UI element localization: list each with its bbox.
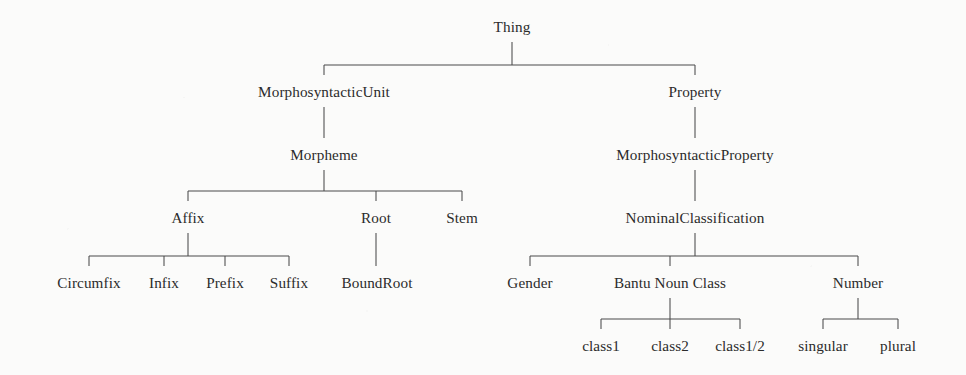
node-number: Number: [833, 274, 883, 291]
node-stem: Stem: [446, 209, 478, 226]
node-affix: Affix: [171, 209, 204, 226]
tree-svg: ThingMorphosyntacticUnitPropertyMorpheme…: [0, 0, 966, 375]
node-gender: Gender: [507, 274, 552, 291]
node-thing: Thing: [494, 18, 531, 35]
node-morphosyntactic-property: MorphosyntacticProperty: [616, 146, 774, 163]
label-layer: ThingMorphosyntacticUnitPropertyMorpheme…: [57, 18, 916, 354]
node-class1: class1: [582, 337, 620, 354]
node-singular: singular: [798, 337, 848, 354]
node-property: Property: [668, 83, 721, 100]
node-prefix: Prefix: [206, 274, 244, 291]
taxonomy-diagram: ThingMorphosyntacticUnitPropertyMorpheme…: [0, 0, 966, 375]
node-class1-2: class1/2: [715, 337, 765, 354]
node-suffix: Suffix: [270, 274, 309, 291]
node-morpheme: Morpheme: [290, 146, 358, 163]
node-bound-root: BoundRoot: [342, 274, 414, 291]
node-plural: plural: [880, 337, 916, 354]
node-circumfix: Circumfix: [57, 274, 121, 291]
node-nominal-classification: NominalClassification: [626, 209, 765, 226]
node-morphosyntactic-unit: MorphosyntacticUnit: [258, 83, 390, 100]
node-root-node: Root: [361, 209, 392, 226]
node-infix: Infix: [149, 274, 179, 291]
node-bantu-noun-class: Bantu Noun Class: [614, 274, 726, 291]
node-class2: class2: [651, 337, 689, 354]
